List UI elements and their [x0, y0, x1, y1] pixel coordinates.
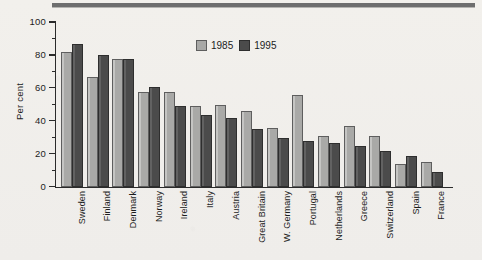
bar-group — [344, 22, 367, 187]
bar-1985 — [241, 111, 252, 187]
x-tick-label: Great Britain — [257, 191, 267, 243]
bar-group — [112, 22, 135, 187]
legend-item-1995: 1995 — [239, 40, 276, 51]
bar-1985 — [344, 126, 355, 187]
bar-1985 — [190, 106, 201, 187]
bar-group — [395, 22, 418, 187]
bar-1985 — [292, 95, 303, 187]
bar-1985 — [138, 92, 149, 187]
bar-group — [421, 22, 444, 187]
x-tick-label: Spain — [411, 191, 421, 215]
x-tick-label: Netherlands — [334, 191, 344, 241]
bar-1985 — [215, 105, 226, 187]
bar-1995 — [149, 87, 160, 187]
x-tick-label: Norway — [154, 191, 164, 222]
bar-1995 — [303, 141, 314, 187]
bar-1985 — [421, 162, 432, 187]
bar-1995 — [226, 118, 237, 187]
x-tick-label: Greece — [359, 191, 369, 221]
bar-group — [61, 22, 84, 187]
legend-item-1985: 1985 — [196, 40, 233, 51]
y-tick-label-60: 60 — [0, 83, 46, 93]
bar-group — [369, 22, 392, 187]
bar-group — [164, 22, 187, 187]
y-tick-60 — [49, 87, 56, 88]
y-tick-40 — [49, 120, 56, 121]
y-tick-label-80: 80 — [0, 50, 46, 60]
y-minor-tick-70 — [52, 71, 56, 72]
bar-1985 — [164, 92, 175, 187]
legend-label-1995: 1995 — [254, 40, 276, 51]
bar-group — [138, 22, 161, 187]
bar-1985 — [112, 59, 123, 187]
bar-1995 — [329, 143, 340, 187]
bar-group — [292, 22, 315, 187]
x-tick-label: Denmark — [128, 191, 138, 228]
bar-1985 — [395, 164, 406, 187]
bar-chart: Per cent 020406080100 SwedenFinlandDenma… — [0, 0, 482, 260]
bar-1995 — [432, 172, 443, 187]
y-tick-label-40: 40 — [0, 116, 46, 126]
bar-1985 — [267, 128, 278, 187]
x-tick-label: Ireland — [179, 191, 189, 219]
legend-label-1985: 1985 — [211, 40, 233, 51]
y-tick-100 — [49, 21, 56, 22]
bar-1995 — [98, 55, 109, 187]
y-tick-label-100: 100 — [0, 17, 46, 27]
y-minor-tick-50 — [52, 104, 56, 105]
bar-1985 — [87, 77, 98, 187]
bar-1995 — [252, 129, 263, 187]
x-tick-label: Portugal — [308, 191, 318, 225]
x-tick-label: Italy — [205, 191, 215, 208]
bar-1985 — [61, 52, 72, 187]
bar-1995 — [278, 138, 289, 187]
y-minor-tick-30 — [52, 137, 56, 138]
x-tick-label: Finland — [102, 191, 112, 221]
bar-1995 — [201, 115, 212, 187]
y-tick-0 — [49, 186, 56, 187]
y-tick-label-20: 20 — [0, 149, 46, 159]
y-tick-label-0: 0 — [0, 182, 46, 192]
bar-1995 — [72, 44, 83, 187]
bar-1995 — [123, 59, 134, 187]
x-tick-label: Sweden — [77, 191, 87, 224]
x-tick-label: Austria — [231, 191, 241, 220]
y-minor-tick-10 — [52, 170, 56, 171]
y-minor-tick-90 — [52, 38, 56, 39]
bar-group — [87, 22, 110, 187]
y-tick-80 — [49, 54, 56, 55]
bar-1995 — [355, 146, 366, 187]
x-tick-label: W. Germany — [282, 191, 292, 242]
bar-1985 — [318, 136, 329, 187]
bar-1995 — [175, 106, 186, 187]
x-tick-label: France — [436, 191, 446, 220]
bar-1995 — [406, 156, 417, 187]
chart-legend: 1985 1995 — [196, 40, 277, 51]
bar-1995 — [380, 151, 391, 187]
bar-1985 — [369, 136, 380, 187]
legend-swatch-1995-icon — [239, 40, 250, 51]
y-axis-title: Per cent — [14, 62, 25, 142]
x-tick-label: Switzerland — [385, 191, 395, 239]
bar-group — [318, 22, 341, 187]
legend-swatch-1985-icon — [196, 40, 207, 51]
y-tick-20 — [49, 153, 56, 154]
